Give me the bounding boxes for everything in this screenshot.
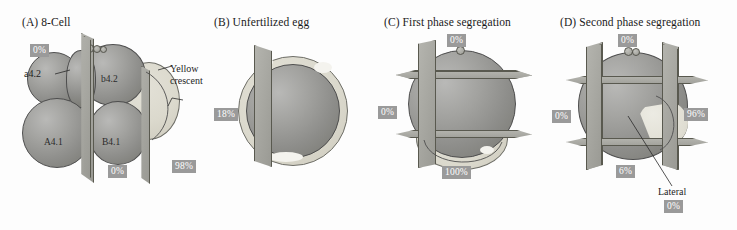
panel-c-badge-bottom: 100%: [442, 166, 471, 179]
panel-a-badge-bottom: 0%: [108, 165, 127, 178]
panel-d-second-phase-segregation: (D) Second phase segregation: [552, 0, 737, 230]
panel-c-badge-left: 0%: [378, 106, 397, 119]
panel-a-outlines: [0, 0, 196, 230]
panel-a-annotation-line1: Yellow: [170, 63, 198, 74]
panel-c-badge-top: 0%: [447, 34, 466, 47]
panel-c-first-phase-segregation: (C) First phase segregation: [374, 0, 552, 230]
panel-a-8-cell: (A) 8-Cell: [0, 0, 196, 230]
panel-b-highlight-upper-right: [314, 62, 332, 73]
panel-d-badge-bottom: 6%: [616, 165, 635, 178]
panel-d-badge-lateral: 0%: [664, 200, 683, 213]
panel-a-badge-crescent: 98%: [172, 160, 196, 173]
panel-a-annotation-yellow-crescent: Yellow crescent: [170, 63, 214, 87]
panel-a-annotation-line2: crescent: [170, 75, 203, 86]
panel-a-badge-top-left: 0%: [30, 44, 49, 57]
figure-myoplasm-segregation: (A) 8-Cell: [0, 0, 737, 230]
panel-d-leaders: [552, 0, 737, 230]
panel-d-badge-left: 0%: [552, 110, 571, 123]
panel-b-highlight-bottom: [269, 152, 303, 162]
panel-b-section-plane: [254, 45, 272, 167]
panel-b-badge-left: 18%: [214, 108, 238, 121]
panel-d-badge-right: 96%: [684, 108, 708, 121]
panel-d-badge-top: 0%: [618, 34, 637, 47]
panel-b-unfertilized-egg: (B) Unfertilized egg 18%: [196, 0, 374, 230]
panel-a-label-a42: a4.2: [24, 68, 41, 79]
panel-d-annotation-lateral: Lateral: [658, 186, 686, 197]
